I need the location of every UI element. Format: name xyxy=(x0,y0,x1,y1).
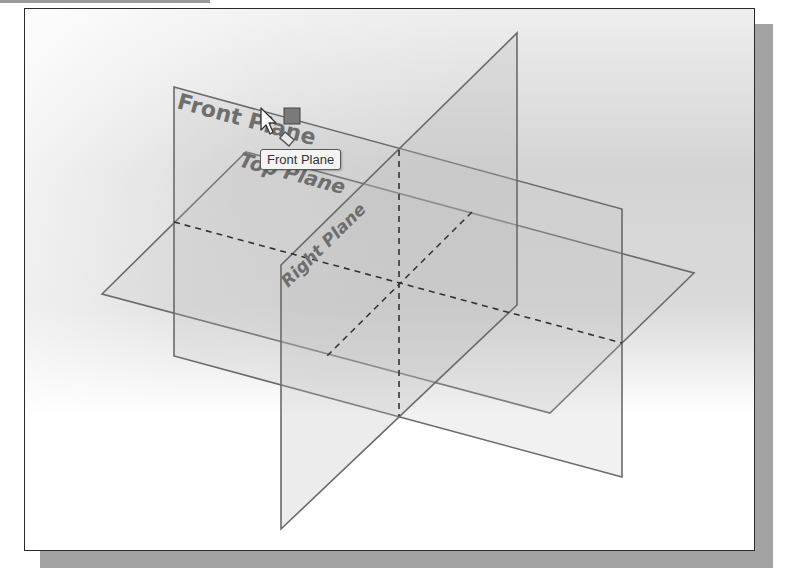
datum-planes-scene: Front Plane Top Plane Right Plane xyxy=(0,0,785,582)
handle-square-icon[interactable] xyxy=(284,108,300,124)
tooltip-front-plane: Front Plane xyxy=(260,149,341,170)
right-plane[interactable] xyxy=(281,33,517,529)
